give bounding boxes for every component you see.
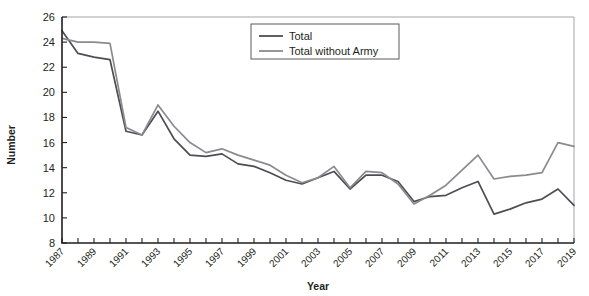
x-tick-label: 2013: [459, 245, 483, 269]
x-tick-label: 1999: [235, 245, 259, 269]
x-tick-label: 2001: [267, 245, 291, 269]
x-tick-label: 2011: [427, 245, 450, 268]
y-tick-label: 16: [43, 137, 55, 149]
y-tick-label: 22: [43, 61, 55, 73]
x-tick-label: 1991: [107, 245, 131, 269]
legend-label-1: Total: [289, 30, 312, 42]
y-axis-title: Number: [5, 125, 17, 165]
y-tick-label: 18: [43, 111, 55, 123]
y-tick-label: 20: [43, 86, 55, 98]
x-axis-tick-labels: 1987198919911993199519971999200120032005…: [43, 245, 579, 269]
y-tick-label: 8: [49, 237, 55, 249]
x-tick-label: 2009: [395, 245, 419, 269]
x-tick-label: 1997: [203, 245, 227, 269]
x-tick-label: 2019: [555, 245, 579, 269]
chart-legend: TotalTotal without Army: [251, 24, 399, 59]
x-tick-label: 2003: [299, 245, 323, 269]
x-tick-label: 1995: [171, 245, 195, 269]
y-axis-tick-labels: 8101214161820222426: [43, 11, 55, 249]
x-tick-label: 2007: [363, 245, 387, 269]
x-tick-label: 2017: [523, 245, 547, 269]
y-tick-label: 26: [43, 11, 55, 23]
y-tick-label: 12: [43, 187, 55, 199]
series-line-total-without-army: [62, 38, 574, 204]
y-tick-label: 14: [43, 162, 55, 174]
x-tick-label: 1993: [139, 245, 163, 269]
line-chart: 8101214161820222426 19871989199119931995…: [0, 0, 589, 296]
x-tick-label: 2005: [331, 245, 355, 269]
chart-canvas: 8101214161820222426 19871989199119931995…: [0, 0, 589, 296]
y-tick-label: 24: [43, 36, 55, 48]
x-tick-label: 1989: [75, 245, 99, 269]
x-axis-title: Year: [307, 280, 329, 292]
y-tick-label: 10: [43, 212, 55, 224]
legend-label-2: Total without Army: [289, 45, 379, 57]
x-tick-label: 2015: [491, 245, 515, 269]
x-tick-label: 1987: [43, 245, 67, 269]
